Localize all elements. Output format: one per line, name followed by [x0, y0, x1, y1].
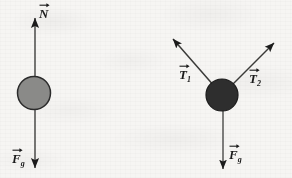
gravitational-force-subscript-left: g	[21, 159, 25, 168]
vector-arrow-accent-t1	[179, 63, 190, 69]
right-free-body-diagram	[173, 39, 274, 169]
ball-body-right	[206, 79, 238, 111]
ball-body-left	[18, 77, 51, 110]
physics-free-body-diagram-figure: N F g T 1 T 2	[0, 0, 292, 178]
gravitational-force-letter-left: F	[12, 151, 21, 166]
gravitational-force-letter-right: F	[229, 147, 238, 162]
vector-arrow-accent-t2	[249, 67, 260, 73]
diagram-canvas	[0, 0, 292, 178]
tension-two-letter: T	[249, 71, 257, 86]
gravitational-force-label-left: F g	[12, 150, 25, 166]
gravitational-force-subscript-right: g	[238, 155, 242, 164]
gravitational-force-label-right: F g	[229, 146, 242, 162]
vector-arrow-accent-fg-right	[229, 143, 240, 149]
tension-one-letter: T	[179, 67, 187, 82]
normal-force-letter: N	[39, 6, 48, 21]
vector-arrow-accent-fg-left	[12, 147, 23, 153]
tension-two-subscript: 2	[257, 79, 261, 88]
vector-arrow-accent-n	[39, 2, 50, 8]
left-free-body-diagram	[18, 18, 51, 168]
normal-force-label: N	[39, 5, 48, 21]
tension-two-label: T 2	[249, 70, 261, 86]
tension-one-subscript: 1	[187, 75, 191, 84]
tension-one-label: T 1	[179, 66, 191, 82]
